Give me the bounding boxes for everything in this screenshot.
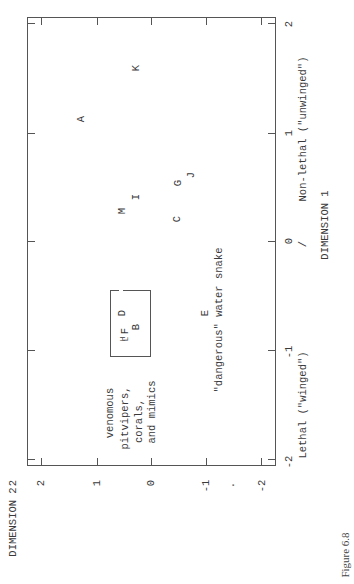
dim1-separator: / [298,241,309,247]
dim1-tick-neg2 [268,459,276,460]
point-K: K [131,65,142,71]
dim1-axis-title: DIMENSION 1 [320,190,331,259]
dim1-tick-label: -1 [284,346,295,359]
point-M: M [117,208,128,214]
dim1-tick-2 [268,23,276,24]
dim2-tick-label: -2 [257,480,268,493]
dim2-tick-0 [151,458,152,466]
dim2-tick-top-neg1 [206,17,207,25]
annotation-venomous-line3: corals, [134,399,145,443]
point-J: J [186,172,197,178]
dim1-tick-left-neg1 [27,350,35,351]
annotation-water-snake: "dangerous" water snake [214,248,225,393]
dim1-tick-label: 0 [284,238,295,244]
dim2-tick-top-neg2 [261,17,262,25]
dim2-tick-label: 0 [146,480,157,486]
dim1-tick-label: 2 [284,21,295,27]
dim2-tick-label: 1 [92,480,103,486]
annotation-venomous-line4: and mimics [147,380,158,443]
dim2-axis-title: DIMENSION 2 [8,487,19,556]
dim1-tick-left-0 [27,241,35,242]
point-G: G [173,180,184,186]
dim1-tick-1 [268,133,276,134]
point-A: A [76,116,87,122]
dim2-axis-title-number: 2 [8,480,19,486]
point-H: H [119,337,127,342]
dim2-tick-neg1 [206,458,207,466]
point-B: B [131,324,142,330]
figure-caption: Figure 6.8 [340,532,351,577]
box-gap [119,288,123,292]
dim2-tick-label: -1 [201,480,212,493]
dim2-tick-top-1 [97,17,98,25]
dim1-tick-0 [268,241,276,242]
point-I: I [131,194,142,200]
dim1-negative-label: Lethal ("winged") [298,351,309,458]
annotation-venomous-line2: pitvipers, [120,386,131,449]
dim1-tick-left-neg2 [27,459,35,460]
dim2-tick-top-2 [41,17,42,25]
point-D: D [117,310,128,316]
dim2-tick-label: 2 [36,480,47,486]
dim1-tick-neg1 [268,350,276,351]
dim1-tick-label: -2 [284,456,295,469]
point-F: F [120,328,131,334]
dim1-tick-left-2 [27,23,35,24]
dim1-positive-label: Non-lethal ("unwinged") [298,57,309,202]
point-E: E [200,310,211,316]
dim2-extra-mark: . [226,482,237,488]
point-C: C [172,216,183,222]
dim2-tick-top-0 [151,17,152,25]
dim2-tick-neg2 [261,458,262,466]
dim1-tick-label: 1 [284,130,295,136]
annotation-venomous-line1: venomous [105,388,116,438]
dim2-tick-1 [97,458,98,466]
dim1-tick-left-1 [27,133,35,134]
dim2-tick-2 [41,458,42,466]
